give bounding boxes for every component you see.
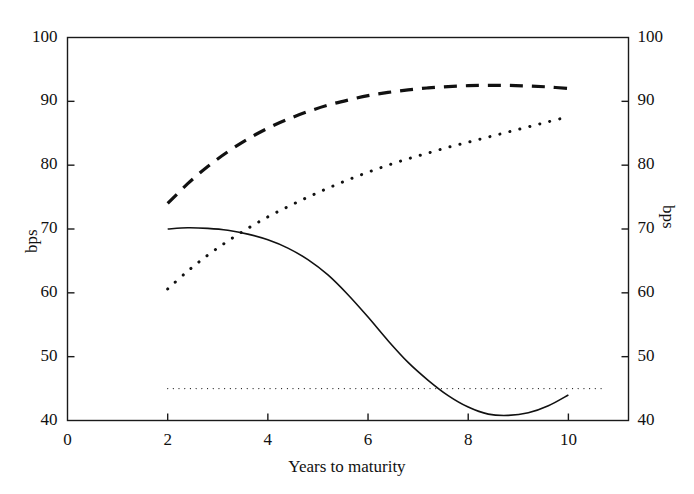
series-solid-lower-curve [168,228,569,416]
y-tick-label-left: 90 [6,90,58,110]
chart-figure: 4040505060607070808090901001000246810 bp… [0,0,694,494]
y-tick-label-right: 40 [638,410,690,430]
y-tick-label-left: 60 [6,282,58,302]
x-tick-label: 10 [538,430,598,450]
y-tick-label-right: 60 [638,282,690,302]
y-tick-label-right: 80 [638,154,690,174]
y-tick-label-right: 100 [638,27,690,47]
x-axis-title: Years to maturity [0,457,694,477]
plot-frame [68,38,629,421]
plot-canvas [0,0,694,494]
x-tick-label: 4 [238,430,298,450]
y-axis-title-right: bps [658,205,678,229]
series-dotted-middle-curve [168,117,569,289]
x-tick-label: 6 [338,430,398,450]
y-tick-label-right: 90 [638,90,690,110]
y-tick-label-left: 100 [6,27,58,47]
series-dashed-upper-curve [168,85,569,203]
y-tick-label-left: 80 [6,154,58,174]
y-tick-label-left: 50 [6,346,58,366]
y-axis-title-left: bps [22,229,42,253]
x-tick-label: 0 [38,430,98,450]
x-tick-label: 2 [138,430,198,450]
y-tick-label-right: 50 [638,346,690,366]
y-tick-label-left: 40 [6,410,58,430]
x-tick-label: 8 [438,430,498,450]
